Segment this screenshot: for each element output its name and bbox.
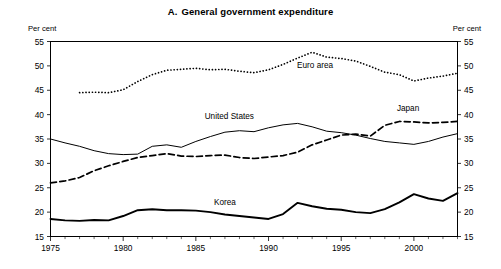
- y-tick-label-right: 35: [464, 134, 474, 144]
- y-tick-label-left: 50: [35, 61, 45, 71]
- y-tick-label-right: 45: [464, 85, 474, 95]
- series-line-japan: [51, 121, 458, 182]
- y-tick-label-left: 40: [35, 110, 45, 120]
- y-tick-label-right: 50: [464, 61, 474, 71]
- series-line-euro-area: [80, 52, 458, 92]
- y-tick-label-right: 30: [464, 158, 474, 168]
- plot-frame: [51, 42, 458, 237]
- y-tick-label-right: 15: [464, 232, 474, 242]
- x-tick-label: 1980: [114, 243, 133, 253]
- y-tick-label-left: 35: [35, 134, 45, 144]
- series-line-korea: [51, 193, 458, 221]
- y-tick-label-left: 55: [35, 37, 45, 47]
- y-tick-label-left: 15: [35, 232, 45, 242]
- series-label-japan: Japan: [397, 104, 420, 113]
- series-label-united-states: United States: [205, 112, 254, 121]
- y-tick-label-left: 25: [35, 183, 45, 193]
- series-label-euro-area: Euro area: [297, 61, 333, 70]
- x-tick-label: 1975: [41, 243, 60, 253]
- y-tick-label-left: 30: [35, 158, 45, 168]
- x-tick-label: 2000: [405, 243, 424, 253]
- series-line-united-states: [51, 123, 458, 154]
- y-tick-label-right: 25: [464, 183, 474, 193]
- x-tick-label: 1985: [187, 243, 206, 253]
- chart-panel: A.General government expenditure Per cen…: [0, 0, 501, 269]
- y-tick-label-right: 20: [464, 207, 474, 217]
- x-tick-label: 1990: [259, 243, 278, 253]
- y-tick-label-left: 45: [35, 85, 45, 95]
- series-label-korea: Korea: [214, 198, 236, 207]
- chart-plot-area: 1515202025253030353540404545505055551975…: [0, 0, 501, 269]
- y-tick-label-left: 20: [35, 207, 45, 217]
- y-tick-label-right: 55: [464, 37, 474, 47]
- x-tick-label: 1995: [332, 243, 351, 253]
- y-tick-label-right: 40: [464, 110, 474, 120]
